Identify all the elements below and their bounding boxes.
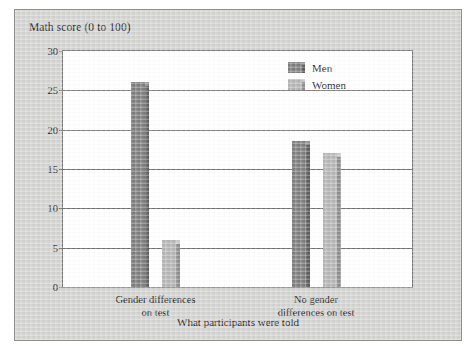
gridline [63,169,412,170]
legend: Men Women [288,59,346,93]
y-axis-tick-label: 20 [48,124,59,135]
bar-women-group2 [323,153,341,287]
y-axis-tick-label: 15 [48,164,59,175]
gridline [63,90,412,91]
gridline [63,248,412,249]
y-axis-tick-mark [59,169,63,170]
bar-men-group2 [292,141,310,287]
legend-label-men: Men [312,62,332,74]
legend-swatch-women-icon [288,79,305,90]
legend-swatch-men-icon [288,62,305,73]
gridline [63,208,412,209]
gridline [63,130,412,131]
y-axis-tick-mark [59,208,63,209]
plot-area: 051015202530 Gender differenceson testNo… [62,50,413,288]
y-axis-tick-label: 10 [48,203,59,214]
chart-figure: Math score (0 to 100) 051015202530 Gende… [14,9,462,341]
y-axis-tick-mark [59,248,63,249]
legend-item-women: Women [288,76,346,93]
y-axis-tick-label: 30 [48,46,59,57]
y-axis-tick-mark [59,90,63,91]
category-label-line: No gender [278,293,355,306]
y-axis-tick-label: 0 [53,282,58,293]
legend-label-women: Women [312,79,346,91]
y-axis-tick-mark [59,287,63,288]
y-axis-tick-mark [59,130,63,131]
y-axis-title: Math score (0 to 100) [29,21,131,33]
y-axis-tick-mark [59,51,63,52]
category-label-line: Gender differences [115,293,195,306]
y-axis-tick-label: 25 [48,85,59,96]
x-axis-title: What participants were told [15,316,461,328]
y-axis-tick-label: 5 [53,242,58,253]
legend-item-men: Men [288,59,346,76]
bar-women-group1 [162,240,180,287]
bar-men-group1 [131,82,149,287]
